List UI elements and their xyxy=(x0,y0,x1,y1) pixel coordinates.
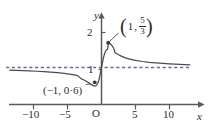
x-tick-label-minus-10: −10 xyxy=(22,109,39,120)
y-axis-label: y xyxy=(94,10,99,21)
maximum-point-label: ( 1 , 5 3 ) xyxy=(120,16,153,37)
x-axis-label: x xyxy=(197,111,202,122)
minimum-point-label: (−1, 0·6) xyxy=(43,85,82,96)
x-axis-ticks xyxy=(34,105,170,110)
minimum-point-marker xyxy=(93,80,97,84)
x-tick-label-5: 5 xyxy=(132,109,138,120)
function-curve xyxy=(10,43,190,86)
x-axis-arrowhead xyxy=(198,101,205,107)
fraction-numerator: 5 xyxy=(139,16,146,25)
max-point-comma: , xyxy=(134,21,137,32)
max-point-x-value: 1 xyxy=(128,21,134,32)
fraction-denominator: 3 xyxy=(139,27,146,36)
x-tick-label-10: 10 xyxy=(163,109,174,120)
open-paren: ( xyxy=(120,17,127,35)
y-axis-arrowhead xyxy=(98,12,104,18)
x-tick-label-minus-5: −5 xyxy=(59,109,71,120)
graph-figure: −10 −5 5 10 1 2 O x y ( 1 , 5 3 ) (−1, 0… xyxy=(0,0,210,135)
origin-label: O xyxy=(92,108,100,119)
maximum-point-leader-line xyxy=(110,33,119,41)
close-paren: ) xyxy=(146,17,153,35)
y-tick-label-1: 1 xyxy=(88,64,94,75)
max-point-y-fraction: 5 3 xyxy=(139,16,146,37)
y-tick-label-2: 2 xyxy=(87,27,93,38)
maximum-point-marker xyxy=(106,41,110,45)
